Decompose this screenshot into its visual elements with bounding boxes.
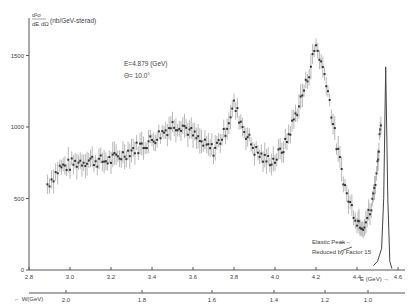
x-tick-label: 4.6 bbox=[394, 274, 403, 280]
x-tick-label: 3.0 bbox=[66, 274, 75, 280]
w-tick-label: 1.6 bbox=[208, 297, 217, 303]
w-tick-label: 2.0 bbox=[62, 297, 71, 303]
w-tick-label: 1.2 bbox=[321, 297, 330, 303]
ylabel-units: (nb/GeV-sterad) bbox=[50, 17, 96, 25]
x-tick-label: 4.0 bbox=[271, 274, 280, 280]
svg-text:—→: —→ bbox=[339, 239, 351, 245]
energy-annotation: E=4.879 (GeV) bbox=[124, 60, 168, 68]
x-tick-label: 3.8 bbox=[230, 274, 239, 280]
w-tick-label: 1.8 bbox=[138, 297, 147, 303]
x-tick-label: 3.4 bbox=[148, 274, 157, 280]
x-tick-label: 3.6 bbox=[189, 274, 198, 280]
plot-area: 050010001500 2.83.03.23.43.63.84.04.24.4… bbox=[0, 0, 420, 307]
w-ticks: 2.01.81.61.41.21.0 bbox=[62, 290, 373, 303]
ylabel-denominator: dE dΩ bbox=[32, 21, 49, 27]
x-ticks: 2.83.03.23.43.63.84.04.24.44.6 bbox=[25, 267, 403, 280]
elastic-peak-curve bbox=[373, 67, 392, 269]
angle-annotation: Θ= 10.0° bbox=[124, 72, 150, 79]
y-tick-label: 500 bbox=[14, 196, 25, 202]
y-tick-label: 1500 bbox=[11, 53, 25, 59]
x-axis-label: E (GeV) → bbox=[360, 276, 389, 282]
y-tick-label: 0 bbox=[21, 267, 25, 273]
w-axis-label: ← W(GeV) bbox=[14, 296, 43, 302]
x-tick-label: 4.2 bbox=[312, 274, 321, 280]
ylabel-numerator: d²σ bbox=[32, 12, 41, 18]
x-tick-label: 3.2 bbox=[107, 274, 116, 280]
y-tick-label: 1000 bbox=[11, 124, 25, 130]
y-ticks: 050010001500 bbox=[11, 53, 29, 274]
w-tick-label: 1.0 bbox=[364, 297, 373, 303]
chart: 050010001500 2.83.03.23.43.63.84.04.24.4… bbox=[0, 0, 420, 307]
x-tick-label: 2.8 bbox=[25, 274, 34, 280]
inelastic-data-points bbox=[46, 38, 381, 238]
reduction-factor-label: Reduced by Factor 15 bbox=[312, 249, 372, 255]
w-tick-label: 1.4 bbox=[270, 297, 279, 303]
